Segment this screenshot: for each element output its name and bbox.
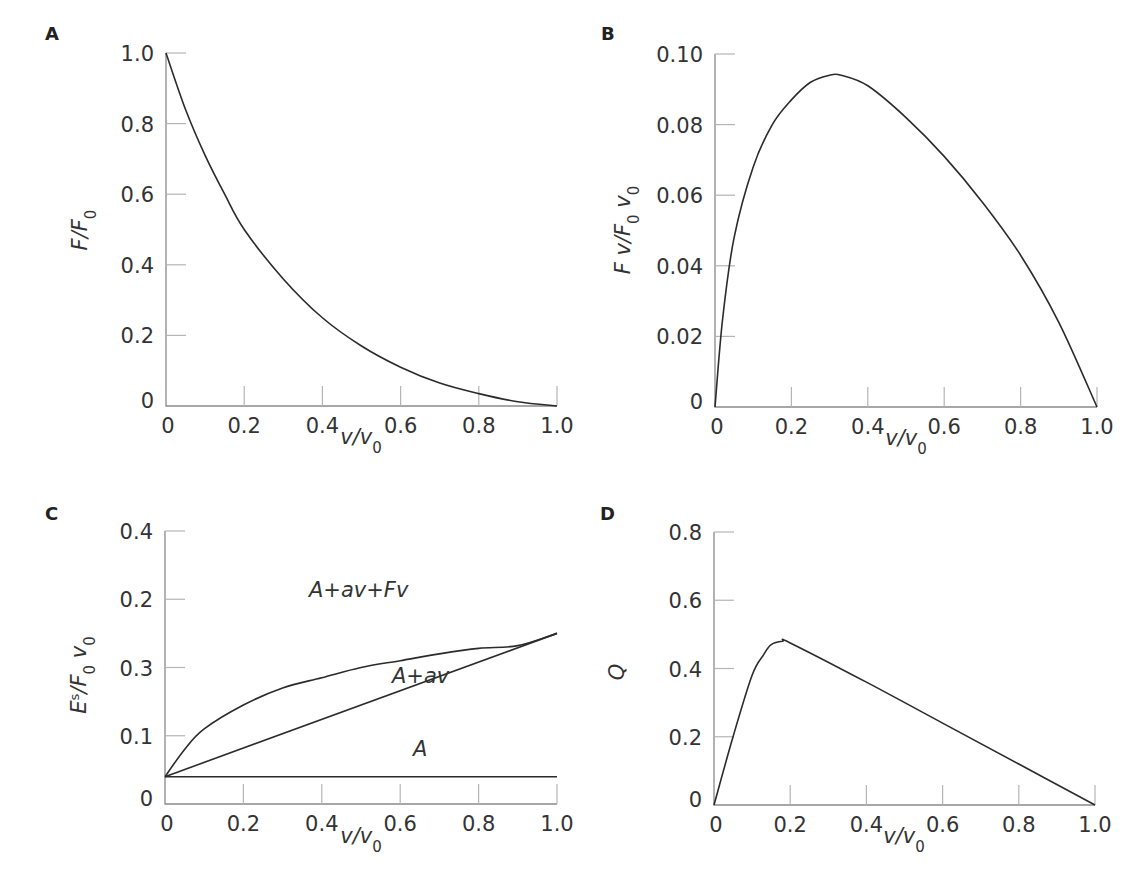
panel-d: D00.20.40.60.800.20.40.60.81.0v/v0Q [600,503,1112,856]
y-tick-label: 1.0 [121,42,154,66]
x-tick-label: 0.6 [383,812,416,836]
x-axis-label: v/v0 [340,824,381,856]
x-tick-label: 1.0 [540,414,573,438]
y-tick-label: 0 [141,389,154,413]
x-tick-label: 0.2 [775,415,808,439]
y-tick-label: 0.2 [121,324,154,348]
panel-b: B00.020.040.060.080.1000.20.40.60.81.0v/… [601,23,1114,458]
curve-annotation: A+av [390,664,450,688]
x-tick-label: 1.0 [1078,813,1111,837]
y-axis-label: Es/F0 v0 [67,636,100,713]
x-tick-label: 0.8 [462,812,495,836]
y-tick-label: 0.4 [669,658,702,682]
curve-annotation: A+av+Fv [307,578,409,602]
panel-letter: D [600,503,615,524]
x-tick-label: 0.8 [1004,415,1037,439]
x-tick-label: 0.2 [227,812,260,836]
x-tick-label: 0.8 [462,414,495,438]
curve-f-f0 [166,53,557,406]
panel-a: A00.20.40.60.81.000.20.40.60.81.0v/v0F/F… [45,23,574,457]
y-axis-label: F v/F0 v0 [611,186,643,275]
y-tick-label: 0.8 [669,521,702,545]
x-tick-label: 0.2 [227,414,260,438]
x-tick-label: 0.6 [384,414,417,438]
axes [715,54,1097,407]
x-tick-label: 0.4 [305,812,338,836]
x-tick-label: 1.0 [1080,415,1113,439]
x-tick-label: 0 [161,414,174,438]
x-tick-label: 0.4 [851,415,884,439]
y-tick-label: 0.8 [121,113,154,137]
y-tick-label: 0 [690,390,703,414]
curve-power [715,74,1097,407]
figure: A00.20.40.60.81.000.20.40.60.81.0v/v0F/F… [0,0,1123,896]
y-tick-label: 0.4 [121,254,154,278]
y-tick-label: 0.02 [656,325,703,349]
x-axis-label: v/v0 [340,425,381,457]
curve-annotation: A [411,737,427,761]
x-tick-label: 1.0 [540,812,573,836]
x-tick-label: 0 [709,813,722,837]
y-tick-label: 0.6 [121,183,154,207]
x-tick-label: 0.4 [306,414,339,438]
y-tick-label: 0 [689,788,702,812]
x-tick-label: 0.2 [773,813,806,837]
y-tick-label: 0.10 [656,43,703,67]
x-tick-label: 0 [160,812,173,836]
x-tick-label: 0.4 [850,813,883,837]
y-tick-label: 0.2 [669,726,702,750]
y-tick-label: 0.4 [120,520,153,544]
panel-c: C00.10.30.20.400.20.40.60.81.0v/v0Es/F0 … [45,503,574,856]
x-tick-label: 0.6 [926,813,959,837]
y-tick-label: 0.1 [120,725,153,749]
x-tick-label: 0 [710,415,723,439]
y-tick-label: 0.08 [656,114,703,138]
axes [714,532,1095,805]
y-tick-label: 0.06 [656,184,703,208]
y-tick-label: 0.2 [120,588,153,612]
x-tick-label: 0.8 [1002,813,1035,837]
curve-q [714,639,1095,805]
panel-letter: C [45,503,58,524]
y-axis-label: Q [605,664,629,681]
y-tick-label: 0.3 [120,657,153,681]
x-axis-label: v/v0 [885,426,926,458]
x-axis-label: v/v0 [883,824,924,856]
curve-a-av [165,633,557,776]
y-tick-label: 0.04 [656,255,703,279]
y-axis-label: F/F0 [68,210,100,251]
y-tick-label: 0 [140,787,153,811]
y-tick-label: 0.6 [669,589,702,613]
axes [166,53,557,406]
panel-letter: A [45,23,59,44]
panel-letter: B [601,23,615,44]
x-tick-label: 0.6 [927,415,960,439]
